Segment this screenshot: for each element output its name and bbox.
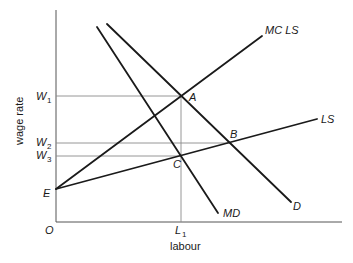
l1-tick-label: L 1: [175, 224, 187, 239]
point-b-label: B: [230, 128, 237, 140]
svg-text:L: L: [175, 224, 181, 236]
d-curve: [107, 24, 291, 202]
mc-ls-label: MC LS: [265, 24, 299, 36]
w1-tick-label: W 1: [36, 90, 52, 105]
md-curve: [97, 27, 218, 213]
origin-label: O: [45, 224, 54, 236]
ls-curve: [56, 119, 317, 189]
svg-text:1: 1: [182, 230, 187, 239]
point-c-label: C: [173, 158, 181, 170]
w3-tick-label: W 3: [36, 149, 52, 164]
point-a-label: A: [188, 91, 196, 103]
y-axis-title: wage rate: [13, 97, 25, 146]
svg-text:1: 1: [47, 96, 52, 105]
md-label: MD: [223, 207, 240, 219]
mc-ls-curve: [56, 36, 262, 189]
ls-label: LS: [321, 113, 335, 125]
svg-text:2: 2: [47, 142, 52, 151]
x-axis-title: labour: [170, 240, 201, 252]
monopsony-diagram: MC LS LS MD D A B C E O W 1 W 2 W 3 L 1 …: [0, 0, 353, 263]
svg-text:3: 3: [47, 155, 52, 164]
d-label: D: [293, 200, 301, 212]
point-e-label: E: [43, 187, 51, 199]
